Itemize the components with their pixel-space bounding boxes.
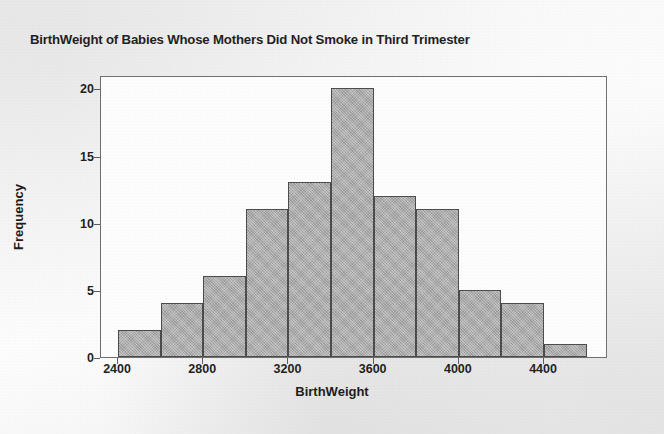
plot-area: [100, 76, 607, 358]
x-tick-mark: [373, 358, 374, 364]
y-tick-mark: [94, 89, 100, 90]
histogram-bar: [544, 344, 587, 357]
histogram-bar: [416, 209, 459, 357]
x-tick-mark: [543, 358, 544, 364]
x-tick-label: 4000: [444, 362, 472, 376]
histogram-bar: [288, 182, 331, 357]
x-tick-mark: [117, 358, 118, 364]
y-tick-label: 20: [80, 82, 94, 96]
histogram-bar: [374, 196, 417, 357]
x-tick-label: 3200: [274, 362, 302, 376]
x-tick-mark: [202, 358, 203, 364]
y-tick-label: 5: [87, 284, 94, 298]
x-tick-mark: [458, 358, 459, 364]
x-tick-label: 2400: [103, 362, 131, 376]
histogram-bar: [501, 303, 544, 357]
y-axis: 05101520: [56, 0, 94, 434]
y-tick-mark: [94, 358, 100, 359]
y-tick-label: 10: [80, 217, 94, 231]
x-tick-label: 3600: [359, 362, 387, 376]
histogram-bar: [459, 290, 502, 357]
y-tick-mark: [94, 224, 100, 225]
y-tick-mark: [94, 291, 100, 292]
x-tick-label: 4400: [529, 362, 557, 376]
x-axis-title: BirthWeight: [0, 384, 664, 399]
x-tick-label: 2800: [188, 362, 216, 376]
y-tick-label: 15: [80, 150, 94, 164]
histogram-bar: [203, 276, 246, 357]
y-tick-mark: [94, 157, 100, 158]
y-tick-label: 0: [87, 351, 94, 365]
page-title: BirthWeight of Babies Whose Mothers Did …: [30, 32, 470, 47]
y-axis-title: Frequency: [11, 184, 26, 250]
bar-series: [101, 77, 606, 357]
histogram-figure: BirthWeight of Babies Whose Mothers Did …: [0, 0, 664, 434]
histogram-bar: [161, 303, 204, 357]
x-tick-mark: [287, 358, 288, 364]
histogram-bar: [118, 330, 161, 357]
histogram-bar: [331, 88, 374, 357]
histogram-bar: [246, 209, 289, 357]
